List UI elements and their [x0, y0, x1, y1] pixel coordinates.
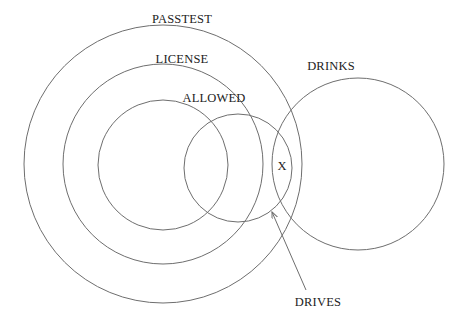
venn-svg — [0, 0, 464, 322]
venn-diagram: PASSTEST LICENSE ALLOWED DRIVES DRINKS X — [0, 0, 464, 322]
circle-drives — [184, 114, 292, 222]
label-drinks: DRINKS — [307, 59, 355, 74]
label-passtest: PASSTEST — [152, 12, 212, 27]
label-license: LICENSE — [156, 52, 209, 67]
circle-drinks — [272, 78, 444, 250]
label-allowed: ALLOWED — [182, 91, 245, 106]
label-drives: DRIVES — [295, 295, 341, 310]
circle-passtest — [24, 25, 302, 303]
marker-x: X — [277, 159, 286, 174]
circle-allowed — [98, 100, 228, 230]
